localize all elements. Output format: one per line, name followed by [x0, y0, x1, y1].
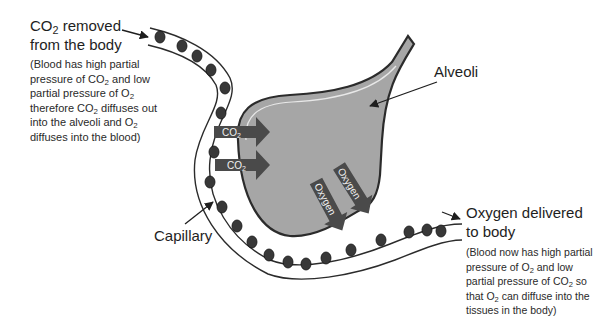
oxygen-delivered-note: (Blood now has high partial pressure of …: [466, 245, 616, 318]
co2-removed-title: CO2 removed from the body: [30, 16, 180, 54]
oxygen-delivered-pointer: [442, 212, 460, 219]
oxygen-delivered-label: Oxygen delivered to body (Blood now has …: [466, 203, 616, 318]
alveoli-label: Alveoli: [434, 62, 478, 81]
co2-removed-label: CO2 removed from the body (Blood has hig…: [30, 16, 180, 144]
capillary-label: Capillary: [154, 226, 212, 245]
co2-removed-note: (Blood has high partial pressure of CO2 …: [30, 57, 180, 144]
oxygen-delivered-title: Oxygen delivered to body: [466, 203, 616, 241]
